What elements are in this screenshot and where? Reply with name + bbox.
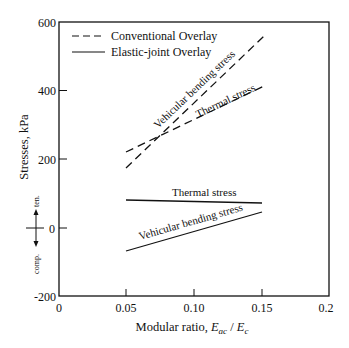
annotation-elastic-thermal: Thermal stress bbox=[172, 186, 236, 198]
plot-frame bbox=[59, 22, 329, 296]
x-tick-label: 0.2 bbox=[319, 301, 334, 315]
x-tick-label: 0.15 bbox=[252, 301, 273, 315]
series-elastic-thermal bbox=[126, 200, 262, 203]
y-tick-label: 600 bbox=[38, 16, 56, 30]
stress-chart: 600 400 200 0 -200 0 0.05 0.10 0.15 0.2 … bbox=[0, 0, 349, 348]
y-tick-label: 400 bbox=[38, 84, 56, 98]
x-ticks bbox=[126, 289, 262, 296]
arrow-down-icon bbox=[34, 241, 39, 247]
tension-label: ten. bbox=[32, 195, 41, 207]
legend-label-elastic: Elastic-joint Overlay bbox=[111, 45, 211, 59]
x-axis-label: Modular ratio, Eac / Ec bbox=[136, 320, 249, 336]
legend: Conventional Overlay Elastic-joint Overl… bbox=[72, 29, 217, 59]
y-tick-label: -200 bbox=[34, 290, 56, 304]
legend-label-conventional: Conventional Overlay bbox=[111, 29, 217, 43]
x-tick-label: 0.10 bbox=[184, 301, 205, 315]
compression-label: comp. bbox=[32, 254, 41, 274]
y-axis-label: Stresses, kPa bbox=[17, 114, 31, 180]
arrow-up-icon bbox=[34, 209, 39, 215]
y-tick-label: 200 bbox=[38, 153, 56, 167]
y-tick-label: 0 bbox=[49, 222, 55, 236]
annotation-conventional-vehicular: Vehicular bending stress bbox=[151, 47, 237, 130]
y-ticks bbox=[59, 91, 67, 229]
x-tick-label: 0.05 bbox=[116, 301, 137, 315]
x-tick-label: 0 bbox=[56, 301, 62, 315]
x-tick-labels: 0 0.05 0.10 0.15 0.2 bbox=[56, 301, 334, 315]
sign-convention: ten. comp. bbox=[26, 195, 44, 274]
